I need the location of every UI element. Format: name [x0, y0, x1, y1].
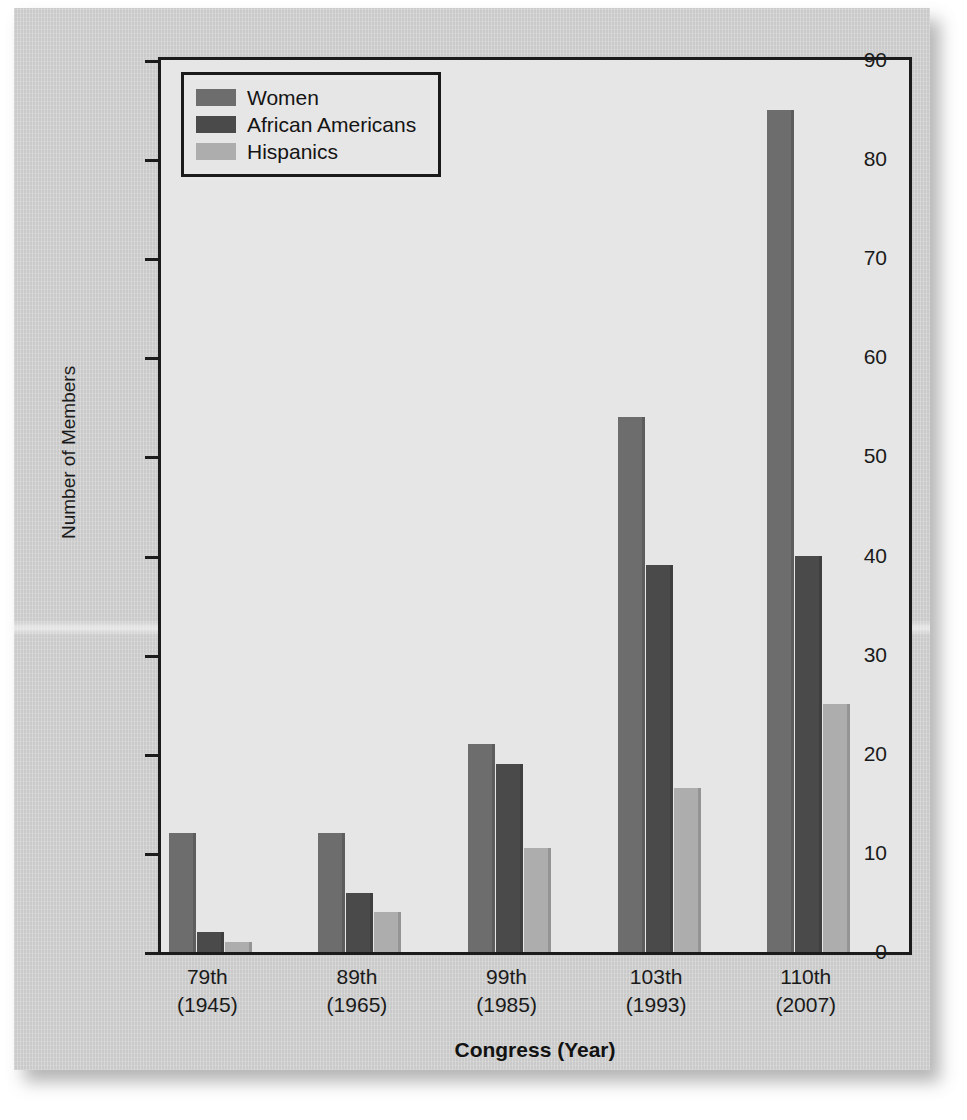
bar-hispanics[interactable]	[674, 788, 701, 952]
x-label-year: (1965)	[327, 991, 388, 1019]
bar-hispanics[interactable]	[823, 704, 850, 952]
y-axis-tick	[145, 456, 161, 459]
legend-swatch-icon	[196, 116, 236, 133]
x-label-year: (1993)	[626, 991, 687, 1019]
x-label-congress: 103th	[626, 963, 687, 991]
x-axis-tick-label: 89th(1965)	[327, 963, 388, 1020]
x-label-congress: 110th	[775, 963, 836, 991]
y-axis-tick	[145, 853, 161, 856]
y-axis-tick	[145, 754, 161, 757]
x-axis-tick-label: 103th(1993)	[626, 963, 687, 1020]
x-label-year: (1985)	[476, 991, 537, 1019]
legend-label: Hispanics	[247, 140, 338, 164]
y-axis-tick	[145, 60, 161, 63]
bar-african-americans[interactable]	[346, 893, 373, 952]
bar-african-americans[interactable]	[795, 556, 822, 952]
bar-women[interactable]	[468, 744, 495, 952]
bar-african-americans[interactable]	[646, 565, 673, 952]
x-axis-tick-label: 110th(2007)	[775, 963, 836, 1020]
legend-swatch-icon	[196, 143, 236, 160]
scanned-page-sheet: Number of Members 0102030405060708090 Wo…	[14, 8, 930, 1070]
chart-legend: WomenAfrican AmericansHispanics	[181, 72, 441, 177]
x-axis-title: Congress (Year)	[158, 1038, 912, 1062]
y-axis-tick	[145, 655, 161, 658]
y-axis-tick	[145, 258, 161, 261]
bar-series-layer	[161, 60, 909, 952]
bar-women[interactable]	[618, 417, 645, 952]
x-label-congress: 79th	[177, 963, 238, 991]
legend-item-hispanics[interactable]: Hispanics	[196, 138, 416, 165]
y-axis-title: Number of Members	[58, 366, 80, 539]
bar-african-americans[interactable]	[197, 932, 224, 952]
x-axis-tick-label: 99th(1985)	[476, 963, 537, 1020]
y-axis-tick	[145, 952, 161, 955]
bar-women[interactable]	[767, 110, 794, 952]
bar-hispanics[interactable]	[225, 942, 252, 952]
x-label-congress: 99th	[476, 963, 537, 991]
y-axis-tick	[145, 159, 161, 162]
bar-women[interactable]	[169, 833, 196, 952]
x-label-year: (2007)	[775, 991, 836, 1019]
legend-swatch-icon	[196, 89, 236, 106]
bar-hispanics[interactable]	[524, 848, 551, 952]
bar-african-americans[interactable]	[496, 764, 523, 952]
legend-item-women[interactable]: Women	[196, 84, 416, 111]
bar-women[interactable]	[318, 833, 345, 952]
bar-hispanics[interactable]	[374, 912, 401, 952]
x-axis-tick-labels: 79th(1945)89th(1965)99th(1985)103th(1993…	[158, 963, 912, 1043]
x-axis-tick-label: 79th(1945)	[177, 963, 238, 1020]
legend-label: African Americans	[247, 113, 416, 137]
legend-item-african-americans[interactable]: African Americans	[196, 111, 416, 138]
y-axis-tick	[145, 357, 161, 360]
x-label-congress: 89th	[327, 963, 388, 991]
legend-label: Women	[247, 86, 319, 110]
y-axis-tick	[145, 556, 161, 559]
chart-plot-frame: 0102030405060708090 WomenAfrican America…	[158, 57, 912, 955]
x-label-year: (1945)	[177, 991, 238, 1019]
